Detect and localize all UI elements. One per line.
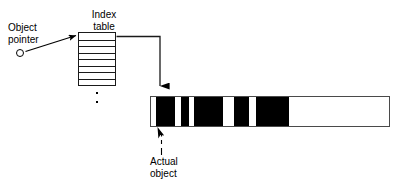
index-table	[78, 32, 116, 86]
object-bar-segment	[194, 97, 223, 126]
index-table-label: Index table	[78, 9, 130, 32]
object-bar-segment	[156, 97, 175, 126]
actual-object-label: Actual object	[150, 156, 178, 179]
continuation-dot	[96, 101, 98, 103]
index-table-row-divider	[79, 72, 115, 73]
actual-object-callout	[158, 127, 165, 155]
index-table-row-divider	[79, 59, 115, 60]
index-table-row-divider	[79, 53, 115, 54]
actual-object-bar	[150, 96, 390, 127]
index-table-row-divider	[79, 40, 115, 41]
diagram-canvas: Object pointer Index table Actual object	[0, 0, 398, 188]
index-table-row-divider	[79, 79, 115, 80]
connector-overlay	[0, 0, 398, 188]
object-bar-segment	[234, 97, 249, 126]
object-bar-segment	[181, 97, 189, 126]
object-pointer-label: Object pointer	[8, 22, 39, 45]
table-to-object-connector	[117, 37, 161, 87]
object-bar-segment	[256, 97, 289, 126]
index-table-row-divider	[79, 46, 115, 47]
continuation-dot	[96, 92, 98, 94]
object-pointer-circle-icon	[16, 49, 24, 57]
index-table-continuation-dots	[96, 92, 100, 110]
index-table-row-divider	[79, 66, 115, 67]
